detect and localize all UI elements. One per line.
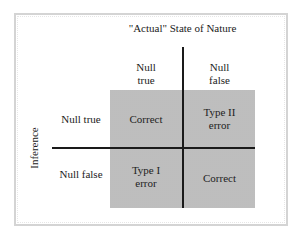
vertical-divider xyxy=(182,47,184,208)
cell-line2: error xyxy=(184,119,255,132)
column-header-null-false: Null false xyxy=(184,61,255,87)
column-header-line1: Null xyxy=(184,61,255,74)
column-header-line1: Null xyxy=(110,61,182,74)
diagram-title: "Actual" State of Nature xyxy=(110,22,255,35)
cell-line1: Type II xyxy=(184,106,255,119)
cell-type-i-error: Type I error xyxy=(110,164,182,190)
cell-correct-reject: Correct xyxy=(184,172,255,185)
column-header-line2: false xyxy=(184,74,255,87)
horizontal-divider xyxy=(52,147,255,149)
cell-correct-retain: Correct xyxy=(110,113,182,126)
cell-line1: Correct xyxy=(110,113,182,126)
cell-line1: Type I xyxy=(110,164,182,177)
cell-type-ii-error: Type II error xyxy=(184,106,255,132)
column-header-line2: true xyxy=(110,74,182,87)
row-header-null-false: Null false xyxy=(52,168,110,181)
column-header-null-true: Null true xyxy=(110,61,182,87)
cell-line2: error xyxy=(110,177,182,190)
row-axis-label: Inference xyxy=(28,118,40,178)
row-header-null-true: Null true xyxy=(52,113,110,126)
cell-line1: Correct xyxy=(184,172,255,185)
